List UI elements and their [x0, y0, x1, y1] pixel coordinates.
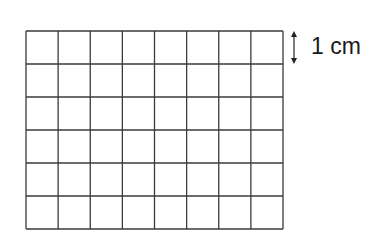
scale-label: 1 cm — [311, 33, 361, 60]
double-arrow-icon — [291, 31, 297, 64]
square-grid — [26, 31, 283, 229]
